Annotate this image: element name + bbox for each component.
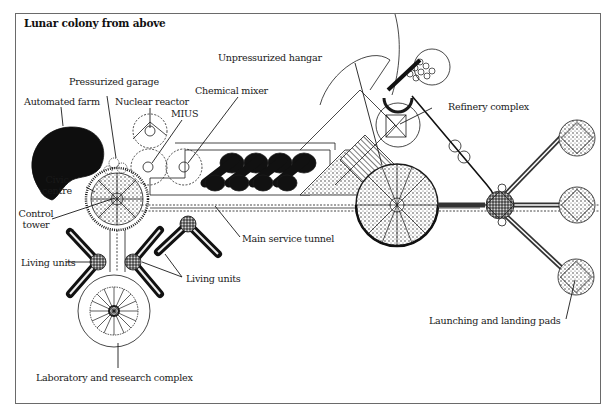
reactor-shield [133, 122, 166, 139]
diagram-title: Lunar colony from above [24, 17, 166, 29]
central-dome-shape [356, 164, 438, 246]
laboratory-complex-shape [78, 275, 150, 347]
label-refinery-complex: Refinery complex [448, 101, 529, 112]
label-mius: MIUS [171, 108, 198, 119]
diagram-canvas: Lunar colony from above Automated farm P… [0, 0, 616, 419]
lab-corridor [110, 230, 125, 272]
label-main-service-tunnel: Main service tunnel [242, 233, 334, 244]
label-living-units-right: Living units [186, 273, 241, 284]
label-unpressurized-hangar: Unpressurized hangar [218, 52, 322, 63]
launch-pads-shape [438, 120, 595, 295]
label-control-tower: Control tower [16, 208, 56, 230]
chemical-mixer-tanks [205, 153, 316, 191]
chemical-mixer-core [179, 162, 189, 172]
label-civic-centre: Civic centre [38, 174, 76, 196]
label-automated-farm: Automated farm [24, 96, 100, 107]
living-units-right-shape [158, 216, 218, 254]
label-pressurized-garage: Pressurized garage [69, 76, 159, 87]
label-civic-centre-line2: centre [38, 185, 76, 196]
label-living-units-left: Living units [21, 257, 76, 268]
reactor-mius-circles [131, 114, 202, 185]
label-chemical-mixer: Chemical mixer [195, 85, 268, 96]
label-control-tower-line1: Control [16, 208, 56, 219]
label-control-tower-line2: tower [16, 219, 56, 230]
label-nuclear-reactor: Nuclear reactor [115, 96, 189, 107]
label-laboratory: Laboratory and research complex [36, 372, 193, 383]
label-civic-centre-line1: Civic [38, 174, 76, 185]
mius-core [143, 162, 153, 172]
label-launch-pads: Launching and landing pads [429, 315, 561, 326]
